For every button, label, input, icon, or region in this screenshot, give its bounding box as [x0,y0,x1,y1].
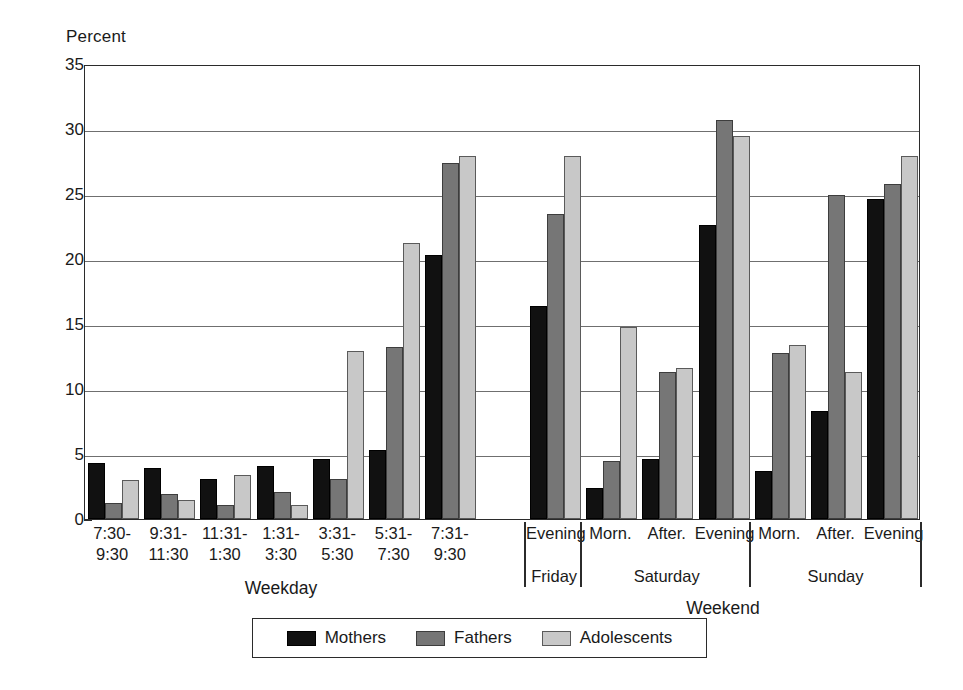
x-tick-label-11: Morn. [751,523,807,544]
legend-entry-fathers: Fathers [416,628,512,648]
bar-mothers-0 [88,463,105,519]
bar-fathers-0 [105,503,122,519]
bar-adolescents-4 [347,351,364,519]
x-tick-label-line: 1:30 [197,544,253,565]
x-tick-label-line: 3:30 [253,544,309,565]
x-tick-label-5: 5:31-7:30 [365,523,421,565]
bar-mothers-10 [699,225,716,519]
bar-mothers-2 [200,479,217,519]
bar-fathers-12 [828,195,845,519]
bar-fathers-13 [884,184,901,519]
bar-fathers-2 [217,505,234,519]
x-tick-label-8: Morn. [582,523,638,544]
bar-adolescents-12 [845,372,862,519]
y-axis-title: Percent [66,27,126,47]
bar-mothers-6 [425,255,442,519]
x-tick-label-line: 7:31- [422,523,478,544]
bar-adolescents-0 [122,480,139,519]
bar-fathers-8 [603,461,620,520]
bar-fathers-4 [330,479,347,519]
bar-adolescents-13 [901,156,918,519]
legend-swatch-mothers [287,631,316,646]
bar-adolescents-1 [178,500,195,520]
bar-adolescents-10 [733,136,750,520]
y-tick-mark-0 [84,520,92,521]
y-tick-label-25: 25 [40,185,84,205]
bar-mothers-3 [257,466,274,519]
subgroup-label-saturday: Saturday [582,567,751,586]
x-tick-label-line: 7:30- [84,523,140,544]
x-tick-label-line: 9:30 [422,544,478,565]
y-tick-label-35: 35 [40,55,84,75]
legend-label-mothers: Mothers [325,628,386,648]
bar-mothers-9 [642,459,659,519]
bar-fathers-5 [386,347,403,519]
y-tick-label-20: 20 [40,250,84,270]
y-tick-label-5: 5 [40,445,84,465]
bar-mothers-4 [313,459,330,519]
bar-fathers-3 [274,492,291,519]
x-tick-label-3: 1:31-3:30 [253,523,309,565]
bar-adolescents-7 [564,156,581,519]
bar-mothers-12 [811,411,828,519]
y-tick-label-30: 30 [40,120,84,140]
bar-adolescents-5 [403,243,420,519]
bar-fathers-10 [716,120,733,519]
x-tick-label-line: 11:30 [140,544,196,565]
legend-swatch-fathers [416,631,445,646]
x-tick-label-line: Evening [864,523,920,544]
y-tick-label-15: 15 [40,315,84,335]
y-tick-label-0: 0 [40,510,84,530]
x-tick-label-line: Evening [695,523,751,544]
bar-fathers-11 [772,353,789,519]
bar-mothers-8 [586,488,603,519]
y-axis-tick-labels: 05101520253035 [30,65,84,520]
subgroup-separator [524,522,526,587]
subgroup-separator [749,522,751,587]
x-tick-label-4: 3:31-5:30 [309,523,365,565]
x-tick-label-9: After. [639,523,695,544]
x-tick-label-line: 11:31- [197,523,253,544]
legend-entry-adolescents: Adolescents [542,628,673,648]
x-tick-label-line: Morn. [582,523,638,544]
bar-fathers-6 [442,163,459,519]
bar-mothers-7 [530,306,547,519]
subgroup-separator [920,522,922,587]
bar-adolescents-2 [234,475,251,519]
bar-adolescents-8 [620,327,637,519]
x-tick-label-10: Evening [695,523,751,544]
x-tick-label-line: After. [807,523,863,544]
bar-fathers-1 [161,494,178,519]
x-tick-label-line: Morn. [751,523,807,544]
section-label-weekend: Weekend [526,598,920,619]
bar-fathers-9 [659,372,676,519]
x-tick-label-1: 9:31-11:30 [140,523,196,565]
subgroup-label-sunday: Sunday [751,567,920,586]
x-tick-label-line: 9:30 [84,544,140,565]
legend-swatch-adolescents [542,631,571,646]
y-tick-label-10: 10 [40,380,84,400]
x-tick-label-7: Evening [526,523,582,544]
x-tick-label-line: 9:31- [140,523,196,544]
bar-adolescents-9 [676,368,693,519]
x-tick-label-6: 7:31-9:30 [422,523,478,565]
bar-adolescents-6 [459,156,476,519]
bar-mothers-11 [755,471,772,519]
subgroup-label-friday: Friday [526,567,582,586]
bar-fathers-7 [547,214,564,520]
bar-adolescents-11 [789,345,806,519]
x-tick-label-line: Evening [526,523,582,544]
legend-label-fathers: Fathers [454,628,512,648]
plot-area [84,65,920,520]
bar-chart-figure: Percent 05101520253035 7:30-9:309:31-11:… [0,0,963,690]
bar-mothers-5 [369,450,386,519]
x-tick-label-13: Evening [864,523,920,544]
section-label-weekday: Weekday [84,578,478,599]
x-tick-label-line: 5:30 [309,544,365,565]
x-tick-label-line: 1:31- [253,523,309,544]
x-tick-label-12: After. [807,523,863,544]
legend-entry-mothers: Mothers [287,628,386,648]
x-tick-label-line: After. [639,523,695,544]
x-tick-label-0: 7:30-9:30 [84,523,140,565]
bar-adolescents-3 [291,505,308,519]
